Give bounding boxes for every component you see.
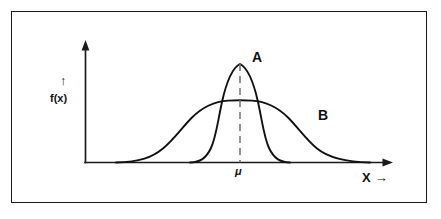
y-axis-label: f(x) (50, 93, 67, 104)
mean-tick-label: μ (235, 166, 242, 177)
x-axis-arrowhead-icon (383, 159, 394, 167)
curve-b-path (116, 100, 370, 162)
figure-root: ↑ f(x) X → μ A B (0, 0, 441, 219)
x-axis-right-arrow-icon: → (375, 171, 388, 184)
curve-a-label: A (252, 50, 262, 64)
x-axis-label: X (362, 171, 371, 184)
y-axis-arrowhead-icon (82, 40, 90, 51)
y-axis-up-arrow-icon: ↑ (60, 74, 67, 87)
curve-b-label: B (318, 108, 328, 122)
x-axis-label-group: X → (362, 171, 388, 184)
normal-distribution-plot (0, 0, 441, 219)
